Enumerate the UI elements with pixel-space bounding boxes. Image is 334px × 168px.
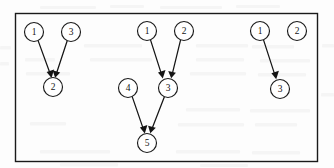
node-label: 3 <box>69 27 74 37</box>
node-middle-4[interactable]: 4 <box>119 79 138 98</box>
node-label: 4 <box>126 83 131 93</box>
node-label: 3 <box>166 83 171 93</box>
node-right-2[interactable]: 2 <box>288 22 307 41</box>
edge-3-to-5 <box>148 97 164 134</box>
node-label: 5 <box>145 138 150 148</box>
node-right-1[interactable]: 1 <box>251 22 270 41</box>
node-left-2[interactable]: 2 <box>44 78 63 97</box>
node-middle-2[interactable]: 2 <box>175 22 194 41</box>
figure-container: 1 3 2 <box>0 0 334 168</box>
edge-2-to-3 <box>168 40 180 79</box>
node-label: 1 <box>258 26 263 36</box>
node-label: 2 <box>51 82 56 92</box>
node-label: 2 <box>295 26 300 36</box>
edge-4-to-5 <box>132 97 147 134</box>
node-label: 1 <box>145 26 150 36</box>
edge-1-to-3 <box>151 40 166 79</box>
node-left-3[interactable]: 3 <box>62 23 81 42</box>
node-label: 2 <box>182 26 187 36</box>
node-right-3[interactable]: 3 <box>271 80 290 99</box>
node-middle-1[interactable]: 1 <box>138 22 157 41</box>
node-label: 1 <box>32 27 37 37</box>
node-middle-5[interactable]: 5 <box>138 134 157 153</box>
node-middle-3[interactable]: 3 <box>159 79 178 98</box>
graph-diagram: 1 3 2 <box>0 0 334 168</box>
middle-cluster: 1 2 3 4 5 <box>119 22 194 153</box>
node-label: 3 <box>278 84 283 94</box>
node-left-1[interactable]: 1 <box>25 23 44 42</box>
